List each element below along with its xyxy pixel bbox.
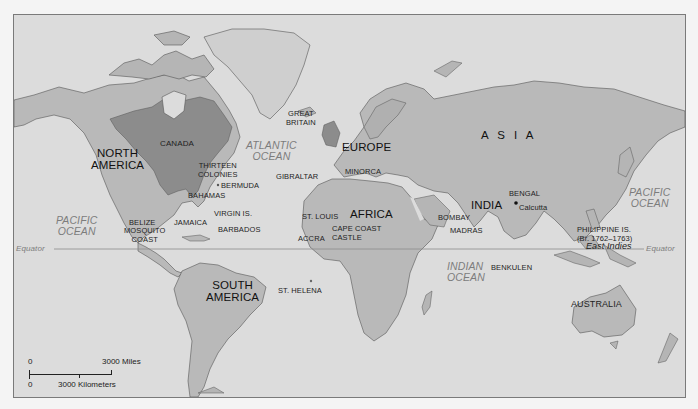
label-calcutta: Calcutta xyxy=(519,203,547,212)
st-helena-dot xyxy=(310,280,312,282)
label-europe: EUROPE xyxy=(342,141,391,153)
scale-bar: 0 3000 Miles 0 3000 Kilometers xyxy=(28,357,138,397)
arctic-islands xyxy=(109,51,214,79)
label-bombay: BOMBAY xyxy=(438,213,470,222)
scale-km-label: 3000 Kilometers xyxy=(58,380,116,389)
label-pacific-ocean-west: PACIFIC OCEAN xyxy=(56,215,97,237)
map-landmasses xyxy=(14,15,685,397)
label-st-louis: ST. LOUIS xyxy=(302,212,338,221)
central-america-landmass xyxy=(138,243,182,277)
label-madras: MADRAS xyxy=(450,226,483,235)
bermuda-dot xyxy=(217,184,219,186)
scale-miles-label: 3000 Miles xyxy=(102,357,141,366)
label-bengal: BENGAL xyxy=(509,189,540,198)
label-equator-right: Equator xyxy=(646,244,675,253)
label-bermuda: BERMUDA xyxy=(221,181,259,190)
label-virgin-islands: VIRGIN IS. xyxy=(214,209,252,218)
world-map: NORTH AMERICA SOUTH AMERICA EUROPE AFRIC… xyxy=(13,14,686,398)
scale-bar-line xyxy=(29,374,112,375)
label-mosquito-coast: MOSQUITO COAST xyxy=(124,226,166,244)
label-australia: AUSTRALIA xyxy=(571,300,622,309)
label-bahamas: BAHAMAS xyxy=(188,191,225,200)
label-st-helena: ST. HELENA xyxy=(278,286,322,295)
label-barbados: BARBADOS xyxy=(218,225,260,234)
label-canada: CANADA xyxy=(160,139,194,148)
label-atlantic-ocean: ATLANTIC OCEAN xyxy=(246,140,297,162)
label-asia: A S I A xyxy=(481,129,537,141)
scale-miles-zero: 0 xyxy=(28,357,32,366)
label-pacific-ocean-east: PACIFIC OCEAN xyxy=(629,187,670,209)
label-accra: ACCRA xyxy=(298,234,325,243)
label-gibraltar: GIBRALTAR xyxy=(276,172,318,181)
great-britain-landmass xyxy=(322,121,340,147)
label-benkulen: BENKULEN xyxy=(491,263,532,272)
label-indian-ocean: INDIAN OCEAN xyxy=(447,261,485,283)
calcutta-dot xyxy=(514,201,518,205)
label-east-indies: East Indies xyxy=(586,242,632,251)
label-thirteen-colonies: THIRTEEN COLONIES xyxy=(198,161,238,179)
label-cape-coast-castle: CAPE COAST CASTLE xyxy=(332,224,381,242)
label-great-britain: GREAT BRITAIN xyxy=(286,109,316,127)
australia-landmass xyxy=(572,285,636,337)
label-jamaica: JAMAICA xyxy=(174,218,207,227)
label-india: INDIA xyxy=(471,199,502,211)
label-equator-left: Equator xyxy=(16,244,45,253)
label-north-america: NORTH AMERICA xyxy=(91,147,144,171)
label-south-america: SOUTH AMERICA xyxy=(206,279,259,303)
label-minorca: MINORCA xyxy=(345,167,381,176)
scale-km-zero: 0 xyxy=(28,380,32,389)
label-africa: AFRICA xyxy=(350,208,393,220)
